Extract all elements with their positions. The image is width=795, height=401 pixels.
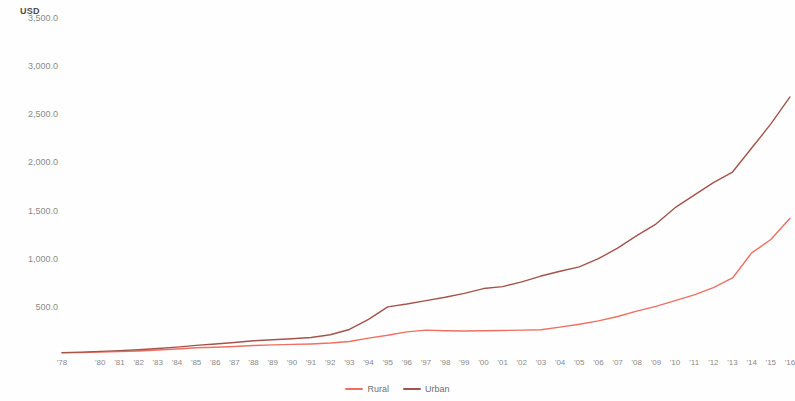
x-tick-label: '84 xyxy=(172,358,182,367)
x-tick-label: '09 xyxy=(651,358,661,367)
y-tick-label: 2,500.0 xyxy=(2,109,58,119)
line-chart: USD 3,500.03,000.02,500.02,000.01,500.01… xyxy=(0,0,795,401)
x-tick-label: '03 xyxy=(536,358,546,367)
y-tick-label: 3,000.0 xyxy=(2,61,58,71)
x-tick-label: '94 xyxy=(363,358,373,367)
x-tick-label: '01 xyxy=(497,358,507,367)
x-tick-label: '05 xyxy=(574,358,584,367)
series-line-rural xyxy=(62,218,790,353)
x-tick-label: '97 xyxy=(421,358,431,367)
x-tick-label: '99 xyxy=(459,358,469,367)
x-tick-label: '85 xyxy=(191,358,201,367)
series-line-urban xyxy=(62,97,790,353)
x-tick-label: '87 xyxy=(229,358,239,367)
x-axis-tick-labels: '78'80'81'82'83'84'85'86'87'88'89'90'91'… xyxy=(62,358,790,372)
x-tick-label: '86 xyxy=(210,358,220,367)
x-tick-label: '81 xyxy=(114,358,124,367)
legend-label: Urban xyxy=(425,384,450,394)
x-tick-label: '96 xyxy=(402,358,412,367)
legend-label: Rural xyxy=(367,384,389,394)
x-tick-label: '91 xyxy=(306,358,316,367)
x-tick-label: '10 xyxy=(670,358,680,367)
x-tick-label: '07 xyxy=(612,358,622,367)
chart-legend: RuralUrban xyxy=(0,384,795,394)
x-tick-label: '80 xyxy=(95,358,105,367)
plot-area xyxy=(62,18,790,355)
y-tick-label: 1,500.0 xyxy=(2,206,58,216)
x-tick-label: '98 xyxy=(440,358,450,367)
x-tick-label: '90 xyxy=(287,358,297,367)
x-tick-label: '06 xyxy=(593,358,603,367)
x-tick-label: '95 xyxy=(382,358,392,367)
x-tick-label: '04 xyxy=(555,358,565,367)
x-tick-label: '89 xyxy=(268,358,278,367)
y-axis-tick-labels: 3,500.03,000.02,500.02,000.01,500.01,000… xyxy=(0,0,58,401)
x-tick-label: '12 xyxy=(708,358,718,367)
legend-swatch-icon xyxy=(403,388,421,390)
legend-item-urban[interactable]: Urban xyxy=(403,384,450,394)
x-tick-label: '16 xyxy=(785,358,795,367)
x-tick-label: '93 xyxy=(344,358,354,367)
x-tick-label: '78 xyxy=(57,358,67,367)
y-tick-label: 500.0 xyxy=(2,302,58,312)
x-tick-label: '82 xyxy=(133,358,143,367)
plot-svg xyxy=(62,18,790,355)
legend-swatch-icon xyxy=(345,388,363,390)
x-tick-label: '88 xyxy=(248,358,258,367)
x-tick-label: '15 xyxy=(766,358,776,367)
legend-item-rural[interactable]: Rural xyxy=(345,384,389,394)
y-tick-label: 1,000.0 xyxy=(2,254,58,264)
x-tick-label: '08 xyxy=(632,358,642,367)
y-tick-label: 2,000.0 xyxy=(2,157,58,167)
x-tick-label: '92 xyxy=(325,358,335,367)
x-tick-label: '02 xyxy=(517,358,527,367)
x-tick-label: '14 xyxy=(746,358,756,367)
x-tick-label: '83 xyxy=(153,358,163,367)
x-tick-label: '11 xyxy=(689,358,699,367)
x-tick-label: '00 xyxy=(478,358,488,367)
x-tick-label: '13 xyxy=(727,358,737,367)
y-tick-label: 3,500.0 xyxy=(2,13,58,23)
